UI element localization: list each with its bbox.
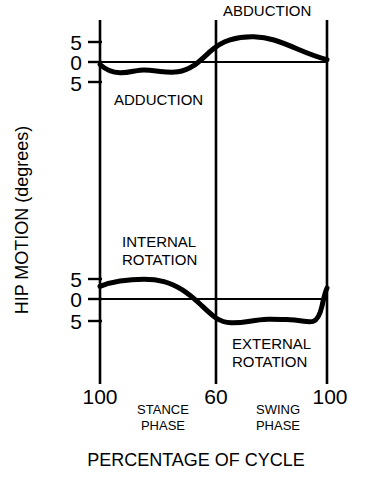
y-axis-title: HIP MOTION (degrees): [12, 126, 32, 315]
x-label-right: 100: [312, 385, 347, 408]
x-label-mid: 60: [204, 385, 227, 408]
label-stance-phase: PHASE: [141, 418, 185, 433]
label-internal: INTERNAL: [122, 233, 196, 250]
hip-motion-chart: 5 0 5 5 0 5 ABDUCTION ADDUCTION INTERNAL…: [0, 0, 369, 482]
y-label-upper-zero: 0: [70, 51, 82, 74]
x-axis-title: PERCENTAGE OF CYCLE: [87, 450, 305, 470]
label-swing-phase: PHASE: [256, 418, 300, 433]
y-label-lower-neg5: 5: [70, 310, 82, 333]
x-label-left: 100: [82, 385, 117, 408]
curve-internal-external-rotation: [100, 279, 327, 323]
label-stance: STANCE: [137, 402, 189, 417]
label-external: EXTERNAL: [232, 335, 311, 352]
label-swing: SWING: [256, 402, 300, 417]
label-adduction: ADDUCTION: [114, 91, 203, 108]
label-external-rotation: ROTATION: [232, 353, 307, 370]
curve-abduction-adduction: [100, 37, 327, 73]
chart-page: 5 0 5 5 0 5 ABDUCTION ADDUCTION INTERNAL…: [0, 0, 369, 482]
y-label-upper-neg5: 5: [70, 72, 82, 95]
y-label-lower-zero: 0: [70, 288, 82, 311]
label-internal-rotation: ROTATION: [122, 251, 197, 268]
label-abduction: ABDUCTION: [223, 2, 311, 19]
